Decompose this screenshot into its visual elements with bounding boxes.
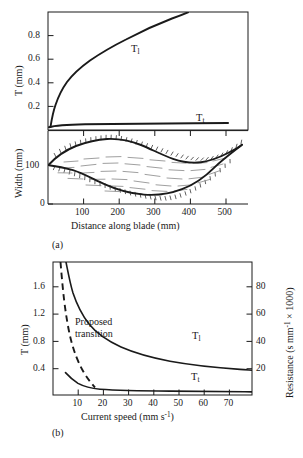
panel-b-xlabel: Current speed (mm s-1) — [81, 412, 174, 422]
figure-container: 0.2 0.4 0.6 0.8 T (mm) Tl Tt 0 100 Width… — [0, 0, 303, 458]
panel-b-ylabel-left: T (mm) — [20, 324, 30, 355]
panel-b-xtick-5: 60 — [199, 399, 209, 409]
panel-a-xtick-3: 400 — [182, 208, 196, 218]
panel-a-xtick-2: 300 — [146, 208, 160, 218]
panel-b-curve-label-tt: Tt — [191, 372, 200, 383]
proposed-transition-annotation-line2: transition — [75, 329, 113, 339]
panel-b-curve-label-tl: Tl — [192, 331, 201, 342]
panel-b-label: (b) — [52, 428, 64, 438]
panel-a-ytick-3: 0.8 — [28, 31, 40, 41]
panel-a-top-ylabel: T (mm) — [14, 65, 24, 96]
panel-b-ylabel-right: Resistance (s mm-1 × 1000) — [285, 287, 295, 398]
panel-a-ytick-1: 0.4 — [28, 78, 40, 88]
panel-b-ytick-right-2: 60 — [256, 309, 266, 319]
panel-a-bottom-ytick-0: 0 — [40, 199, 45, 209]
panel-b-xtick-3: 40 — [148, 399, 158, 409]
panel-a-xlabel: Distance along blade (mm) — [71, 221, 180, 231]
panel-a-xtick-4: 500 — [217, 208, 231, 218]
panel-b-ytick-right-3: 80 — [256, 282, 266, 292]
proposed-transition-annotation-line1: Proposed — [75, 317, 112, 327]
panel-b-xtick-1: 20 — [98, 399, 108, 409]
panel-a-curve-label-tl: Tl — [131, 44, 140, 55]
panel-b-ytick-right-1: 40 — [256, 337, 266, 347]
panel-b-xtick-6: 70 — [224, 399, 234, 409]
panel-b-ytick-left-1: 0.8 — [33, 337, 45, 347]
panel-a-xtick-0: 100 — [75, 208, 89, 218]
panel-b-xtick-0: 10 — [73, 399, 83, 409]
curve-tt-panel-b — [66, 373, 253, 392]
panel-b-ytick-right-0: 20 — [256, 364, 266, 374]
panel-a-curve-label-tt: Tt — [196, 113, 205, 124]
panel-b-ytick-left-2: 1.2 — [33, 309, 45, 319]
panel-a-ytick-2: 0.6 — [28, 54, 40, 64]
panel-a-label: (a) — [52, 240, 63, 250]
panel-a-xtick-1: 200 — [111, 208, 125, 218]
panel-a-bottom-ytick-1: 100 — [25, 161, 39, 171]
curve-tl-panel-a — [51, 12, 189, 127]
panel-a-ytick-0: 0.2 — [28, 102, 40, 112]
panel-b-ytick-left-0: 0.4 — [33, 364, 45, 374]
panel-b-xtick-2: 30 — [123, 399, 133, 409]
panel-b-xtick-4: 50 — [173, 399, 183, 409]
panel-a-bottom-ylabel: Width (mm) — [14, 149, 24, 198]
blade-outline-shape — [49, 135, 242, 200]
panel-b-ytick-left-3: 1.6 — [33, 282, 45, 292]
